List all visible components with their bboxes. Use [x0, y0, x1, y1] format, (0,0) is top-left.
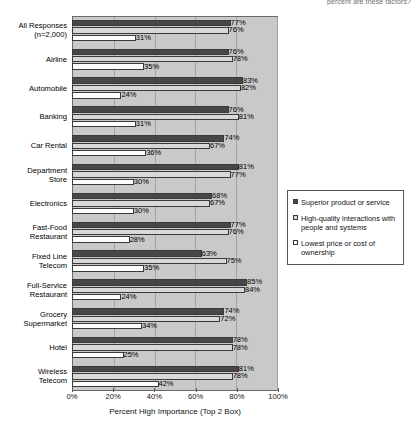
- bar-0: 74%: [72, 308, 224, 314]
- bar-1: 77%: [72, 171, 231, 177]
- bar-value-label: 28%: [130, 236, 145, 244]
- bar-value-label: 24%: [121, 294, 136, 302]
- bar-value-label: 34%: [142, 322, 157, 330]
- bar-value-label: 84%: [245, 286, 260, 294]
- x-axis-tick-mark: [154, 388, 155, 392]
- bar-group: 77%76%31%: [72, 16, 278, 45]
- x-axis: 0%20%40%60%80%100%: [72, 392, 278, 404]
- bar-0: 68%: [72, 193, 212, 199]
- x-axis-tick-mark: [113, 388, 114, 392]
- bar-group: 68%67%30%: [72, 189, 278, 218]
- bar-2: 35%: [72, 63, 144, 69]
- bar-value-label: 63%: [202, 250, 217, 258]
- category-label: Car Rental: [0, 131, 69, 160]
- bar-group: 63%75%35%: [72, 247, 278, 276]
- bar-value-label: 77%: [231, 171, 246, 179]
- category-label: Full-ServiceRestaurant: [0, 275, 69, 304]
- bar-2: 28%: [72, 236, 130, 242]
- bar-rows: 77%76%31%76%78%35%83%82%24%76%81%31%74%6…: [72, 16, 278, 391]
- bar-group: 76%81%31%: [72, 102, 278, 131]
- bar-value-label: 31%: [136, 34, 151, 42]
- bar-value-label: 25%: [124, 351, 139, 359]
- bar-group: 77%76%28%: [72, 218, 278, 247]
- bar-group: 76%78%35%: [72, 45, 278, 74]
- bar-value-label: 75%: [227, 257, 242, 265]
- bar-1: 76%: [72, 229, 229, 235]
- bar-2: 31%: [72, 35, 136, 41]
- x-axis-tick-label: 0%: [67, 392, 78, 401]
- bar-value-label: 35%: [144, 63, 159, 71]
- bar-value-label: 82%: [241, 84, 256, 92]
- bar-value-label: 30%: [134, 207, 149, 215]
- bar-value-label: 24%: [121, 92, 136, 100]
- category-axis-labels: All Responses(n=2,000)AirlineAutomobileB…: [0, 16, 69, 391]
- x-axis-tick-mark: [196, 388, 197, 392]
- bar-0: 81%: [72, 164, 239, 170]
- bar-2: 24%: [72, 294, 121, 300]
- x-axis-tick-mark: [72, 388, 73, 392]
- legend-swatch-icon: [293, 240, 298, 245]
- x-axis-tick-mark: [237, 388, 238, 392]
- bar-group: 85%84%24%: [72, 275, 278, 304]
- bar-value-label: 42%: [159, 380, 174, 388]
- bar-value-label: 76%: [229, 228, 244, 236]
- chart-legend: Superior product or service High-quality…: [287, 190, 404, 265]
- bar-1: 82%: [72, 85, 241, 91]
- bar-2: 34%: [72, 323, 142, 329]
- category-label: GrocerySupermarket: [0, 304, 69, 333]
- bar-value-label: 78%: [233, 55, 248, 63]
- legend-swatch-icon: [293, 199, 298, 204]
- bar-1: 81%: [72, 114, 239, 120]
- legend-item-superior-product: Superior product or service: [293, 198, 398, 207]
- bar-0: 74%: [72, 135, 224, 141]
- bar-1: 67%: [72, 143, 210, 149]
- bar-2: 30%: [72, 179, 134, 185]
- bar-2: 36%: [72, 150, 146, 156]
- x-axis-tick-label: 20%: [106, 392, 121, 401]
- bar-value-label: 30%: [134, 178, 149, 186]
- bar-2: 25%: [72, 352, 124, 358]
- category-label: Airline: [0, 45, 69, 74]
- bar-0: 83%: [72, 77, 243, 83]
- bar-group: 83%82%24%: [72, 74, 278, 103]
- chart-caption: percent are these factors?: [215, 0, 411, 5]
- bar-group: 74%67%36%: [72, 131, 278, 160]
- bar-value-label: 31%: [136, 121, 151, 129]
- legend-label: High-quality interactions with people an…: [301, 214, 398, 232]
- category-label: Banking: [0, 102, 69, 131]
- bar-group: 81%77%30%: [72, 160, 278, 189]
- legend-item-lowest-price: Lowest price or cost of ownership: [293, 239, 398, 257]
- bar-value-label: 74%: [224, 135, 239, 143]
- bar-2: 31%: [72, 121, 136, 127]
- bar-value-label: 76%: [229, 27, 244, 35]
- bar-value-label: 35%: [144, 265, 159, 273]
- bar-0: 85%: [72, 279, 247, 285]
- bar-group: 81%78%42%: [72, 362, 278, 391]
- bar-0: 63%: [72, 250, 202, 256]
- x-axis-title: Percent High Importance (Top 2 Box): [72, 407, 278, 416]
- bar-0: 76%: [72, 49, 229, 55]
- bar-value-label: 78%: [233, 344, 248, 352]
- bar-1: 78%: [72, 373, 233, 379]
- bar-group: 78%78%25%: [72, 333, 278, 362]
- bar-value-label: 36%: [146, 149, 161, 157]
- category-label: DepartmentStore: [0, 160, 69, 189]
- category-label: Electronics: [0, 189, 69, 218]
- category-label: Automobile: [0, 74, 69, 103]
- bar-2: 30%: [72, 208, 134, 214]
- bar-2: 42%: [72, 381, 159, 387]
- x-axis-tick-mark: [278, 388, 279, 392]
- bar-chart: All Responses(n=2,000)AirlineAutomobileB…: [0, 8, 411, 441]
- legend-item-high-quality-interactions: High-quality interactions with people an…: [293, 214, 398, 232]
- x-axis-tick-label: 60%: [188, 392, 203, 401]
- bar-0: 77%: [72, 20, 231, 26]
- category-label: All Responses(n=2,000): [0, 16, 69, 45]
- legend-swatch-icon: [293, 215, 298, 220]
- bar-value-label: 81%: [239, 113, 254, 121]
- x-axis-tick-label: 100%: [268, 392, 287, 401]
- bar-0: 78%: [72, 337, 233, 343]
- category-label: Fast-FoodRestaurant: [0, 218, 69, 247]
- bar-0: 81%: [72, 366, 239, 372]
- bar-0: 76%: [72, 106, 229, 112]
- bar-value-label: 67%: [210, 142, 225, 150]
